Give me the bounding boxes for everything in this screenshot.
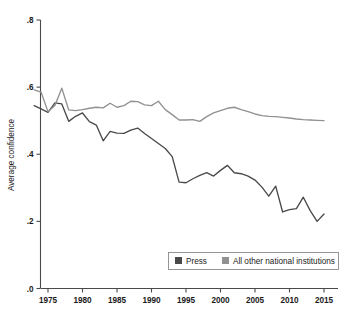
- x-tick-label: 1985: [108, 296, 127, 305]
- y-tick-label: .0: [27, 285, 34, 294]
- x-tick-label: 2000: [211, 296, 230, 305]
- legend-swatch-all-other: [222, 257, 229, 264]
- y-tick-label: .2: [27, 217, 34, 226]
- y-tick-label: .4: [27, 150, 34, 159]
- x-tick-label: 1980: [73, 296, 92, 305]
- y-tick-label: .6: [27, 83, 34, 92]
- x-tick-label: 1975: [39, 296, 58, 305]
- x-tick-label: 1990: [142, 296, 161, 305]
- x-axis-ticks: 197519801985199019952000200520102015: [39, 289, 334, 305]
- y-axis-title: Average confidence: [7, 118, 16, 191]
- y-tick-label: .8: [27, 16, 34, 25]
- line-chart: Average confidence .0.2.4.6.8 1975198019…: [0, 0, 357, 322]
- legend-swatch-press: [175, 257, 182, 264]
- x-tick-label: 2010: [280, 296, 299, 305]
- series-line-all-other-national-institutions: [34, 88, 324, 121]
- chart-legend: Press All other national institutions: [169, 253, 339, 270]
- x-tick-label: 1995: [177, 296, 196, 305]
- x-tick-label: 2015: [315, 296, 334, 305]
- legend-label-all-other: All other national institutions: [233, 257, 335, 266]
- y-axis-ticks: .0.2.4.6.8: [27, 16, 41, 294]
- x-tick-label: 2005: [246, 296, 265, 305]
- legend-label-press: Press: [186, 257, 207, 266]
- series-group: [34, 88, 324, 221]
- chart-container: Average confidence .0.2.4.6.8 1975198019…: [0, 0, 357, 322]
